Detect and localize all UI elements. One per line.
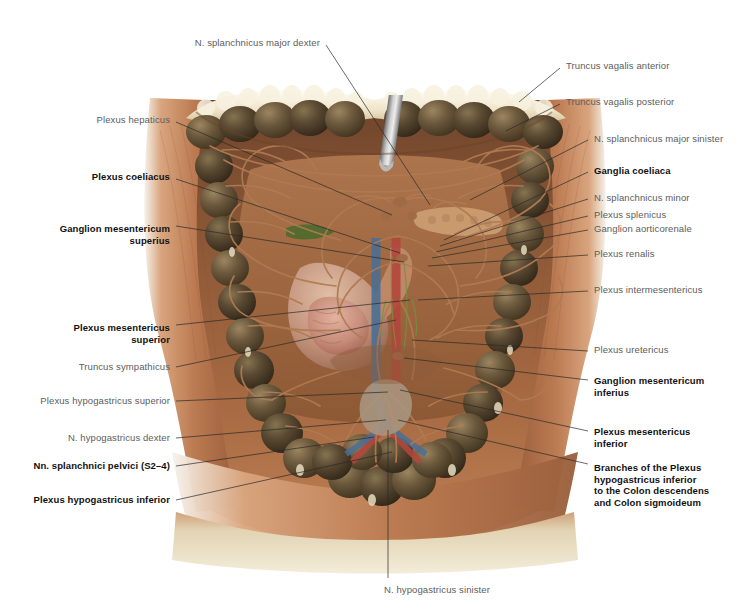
label-ganglion-mesentericum-superius: Ganglion mesentericum superius — [60, 223, 170, 246]
colon-transversum — [186, 100, 563, 149]
leader-plexus-hypogastricus-superior — [176, 392, 388, 401]
appendices-epiploicae — [229, 245, 527, 506]
leader-plexus-mesentericus-inferior — [400, 390, 588, 431]
label-plexus-mesentericus-inferior: Plexus mesentericus inferior — [594, 426, 690, 449]
lower-abdominal-flap — [172, 452, 578, 551]
label-n-hypogastricus-dexter: N. hypogastricus dexter — [68, 432, 170, 444]
leader-lines — [0, 0, 747, 615]
leader-truncus-vagalis-posterior — [506, 104, 560, 131]
mesentery — [236, 155, 513, 423]
label-n-splanchnicus-major-sinister: N. splanchnicus major sinister — [594, 133, 723, 145]
leader-plexus-splenicus — [436, 216, 588, 252]
aorta-abdominalis — [386, 238, 396, 426]
omentum-fringe — [186, 90, 566, 127]
label-branches-plexus-hypogastricus-inferior: Branches of the Plexus hypogastricus inf… — [594, 462, 709, 508]
duodenum — [372, 247, 413, 319]
leader-plexus-hepaticus — [176, 122, 392, 215]
torso-outline — [158, 100, 592, 548]
leader-plexus-hypogastricus-inferior — [176, 452, 392, 500]
iliac-vein-left — [386, 424, 426, 454]
stomach — [288, 263, 388, 371]
cavity-rim — [196, 112, 552, 154]
leader-ganglion-mesentericum-inferius — [404, 358, 588, 380]
label-plexus-splenicus: Plexus splenicus — [594, 209, 666, 221]
retractor — [378, 85, 404, 172]
leader-plexus-coeliacus — [176, 179, 400, 253]
leader-branches-plexus-hypogastricus-inferior — [398, 420, 588, 464]
iliac-artery-right — [352, 426, 386, 462]
label-truncus-vagalis-anterior: Truncus vagalis anterior — [566, 60, 669, 72]
label-ganglia-coeliaca: Ganglia coeliaca — [594, 165, 671, 177]
abdominal-wall-right — [514, 98, 606, 512]
colon-ascendens — [195, 148, 325, 478]
colon-descendens — [424, 148, 554, 478]
gastric-rugae — [313, 310, 342, 343]
leader-ganglia-coeliaca — [444, 172, 588, 240]
label-plexus-renalis: Plexus renalis — [594, 248, 655, 260]
label-plexus-hypogastricus-superior: Plexus hypogastricus superior — [40, 395, 170, 407]
vena-cava-inferior — [376, 238, 386, 424]
leader-truncus-sympathicus — [176, 320, 396, 367]
plexus-hypogastricus-superior-body — [360, 379, 412, 435]
leader-n-hypogastricus-dexter — [176, 420, 386, 438]
splenic-ligament — [286, 225, 334, 240]
lymphatic-strands — [382, 256, 417, 350]
leader-n-splanchnicus-minor — [440, 199, 588, 246]
abdominal-wall-left — [144, 98, 236, 512]
pancreas-lobules — [428, 214, 492, 227]
label-plexus-mesentericus-superior: Plexus mesentericus superior — [74, 322, 170, 345]
label-plexus-uretericus: Plexus uretericus — [594, 344, 669, 356]
illustration-body — [144, 85, 605, 574]
ganglia — [381, 197, 417, 360]
leader-ganglion-aorticorenale — [432, 230, 588, 258]
label-nn-splanchnici-pelvici: Nn. splanchnici pelvici (S2–4) — [33, 460, 170, 472]
nerve-plexus-network — [210, 146, 562, 462]
label-n-hypogastricus-sinister: N. hypogastricus sinister — [384, 584, 490, 596]
abdomen-illustration — [0, 0, 747, 615]
iliac-vein-right — [346, 424, 386, 454]
label-ganglion-aorticorenale: Ganglion aorticorenale — [594, 223, 692, 235]
label-ganglion-mesentericum-inferius: Ganglion mesentericum inferius — [594, 375, 704, 398]
label-plexus-intermesentericus: Plexus intermesentericus — [594, 284, 703, 296]
leader-plexus-renalis — [428, 255, 588, 266]
leader-truncus-vagalis-anterior — [519, 68, 560, 102]
label-plexus-hepaticus: Plexus hepaticus — [97, 114, 170, 126]
label-plexus-hypogastricus-inferior: Plexus hypogastricus inferior — [34, 494, 170, 506]
posterior-wall-shading — [330, 345, 442, 384]
leader-n-splanchnicus-major-dexter — [326, 45, 430, 205]
leader-ganglion-mesentericum-superius — [176, 226, 404, 262]
omentum-lobules — [197, 85, 553, 117]
label-truncus-sympathicus: Truncus sympathicus — [79, 361, 170, 373]
label-n-splanchnicus-minor: N. splanchnicus minor — [594, 192, 690, 204]
label-plexus-coeliacus: Plexus coeliacus — [92, 171, 170, 183]
leader-nn-splanchnici-pelvici — [176, 437, 374, 466]
colon-sigmoideum — [312, 434, 452, 506]
label-n-splanchnicus-major-dexter: N. splanchnicus major dexter — [195, 37, 320, 49]
stomach-mucosa — [308, 297, 369, 356]
leader-plexus-mesentericus-superior — [176, 300, 410, 325]
pancreas — [414, 207, 503, 236]
label-truncus-vagalis-posterior: Truncus vagalis posterior — [566, 96, 674, 108]
leader-plexus-intermesentericus — [418, 291, 588, 300]
skin-margin-bottom — [172, 512, 578, 574]
iliac-artery-left — [386, 426, 420, 462]
leader-n-splanchnicus-major-sinister — [470, 140, 588, 200]
anatomical-plate: N. splanchnicus major dexterPlexus hepat… — [0, 0, 747, 615]
leader-plexus-uretericus — [412, 340, 588, 351]
muscle-striations — [160, 124, 590, 360]
